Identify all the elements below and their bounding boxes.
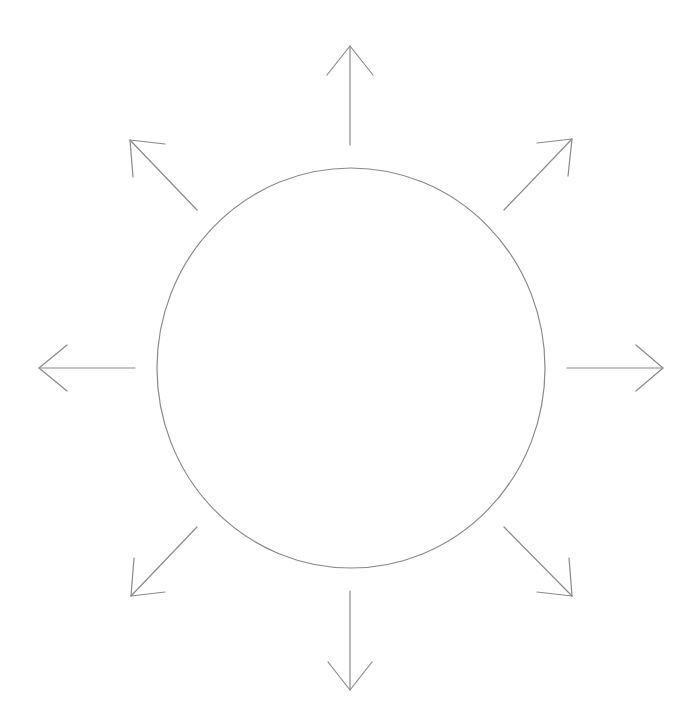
radiating-circle-diagram xyxy=(0,0,696,726)
arrow-shaft xyxy=(131,527,197,596)
outward-arrows xyxy=(39,46,663,690)
arrow-up-right-icon xyxy=(504,139,572,210)
arrow-right-icon xyxy=(567,345,663,391)
arrow-shaft xyxy=(504,139,572,210)
arrow-down-icon xyxy=(328,591,372,690)
arrow-shaft xyxy=(504,527,572,596)
arrow-down-left-icon xyxy=(131,527,197,596)
arrow-shaft xyxy=(130,140,197,210)
arrow-down-right-icon xyxy=(504,527,572,596)
central-circle xyxy=(157,168,545,568)
arrow-up-left-icon xyxy=(130,140,197,210)
arrow-left-icon xyxy=(39,345,135,391)
arrow-up-icon xyxy=(327,46,373,145)
diagram-canvas xyxy=(0,0,696,726)
